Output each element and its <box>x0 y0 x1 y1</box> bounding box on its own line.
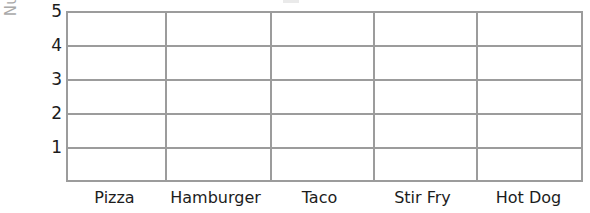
grid-row-4[interactable] <box>68 47 581 81</box>
grid-row-3[interactable] <box>68 81 581 115</box>
y-tick-label-1: 1 <box>30 139 62 156</box>
y-tick-label-2: 2 <box>30 105 62 122</box>
cropped-title-remnant <box>283 0 299 3</box>
x-label-taco: Taco <box>268 188 371 208</box>
y-axis-title: Number of People <box>0 0 22 33</box>
column-divider-4 <box>476 13 478 180</box>
column-divider-2 <box>270 13 272 180</box>
y-tick-label-3: 3 <box>30 71 62 88</box>
grid-row-5[interactable] <box>68 13 581 47</box>
y-tick-label-4: 4 <box>30 37 62 54</box>
x-label-pizza: Pizza <box>66 188 163 208</box>
y-tick-label-5: 5 <box>30 3 62 20</box>
grid-row-2[interactable] <box>68 115 581 149</box>
y-axis-tick-labels: 5 4 3 2 1 <box>30 0 62 213</box>
x-label-hamburger: Hamburger <box>163 188 268 208</box>
column-divider-3 <box>373 13 375 180</box>
plot-grid-area[interactable] <box>66 11 583 182</box>
grid-row-1[interactable] <box>68 149 581 180</box>
bar-chart-template: Number of People 5 4 3 2 1 Pizza Hamburg… <box>0 0 590 213</box>
x-label-hot-dog: Hot Dog <box>474 188 583 208</box>
x-label-stir-fry: Stir Fry <box>371 188 474 208</box>
x-axis-category-labels: Pizza Hamburger Taco Stir Fry Hot Dog <box>66 188 583 213</box>
column-divider-1 <box>165 13 167 180</box>
